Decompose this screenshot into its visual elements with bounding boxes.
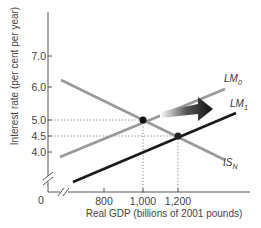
y-tick-6: 6.0 [31,81,46,93]
is-label: ISN [223,157,238,170]
x-axis-label: Real GDP (billions of 2001 pounds) [86,208,243,219]
equilibrium-point-new [175,133,182,140]
guide-lines [48,120,178,192]
shift-arrow-icon [160,97,213,121]
y-tick-4-5: 4.5 [31,130,46,142]
x-tick-800: 800 [95,195,113,207]
y-axis-label: Interest rate (per cent per year) [9,7,20,145]
equilibrium-point-initial [140,117,147,124]
x-tick-1000: 1,000 [130,195,156,207]
lm0-label: LM0 [224,73,242,86]
x-tick-1200: 1,200 [165,195,191,207]
islm-chart: 7.0 6.0 5.0 4.5 4.0 Interest rate (per c… [0,0,261,228]
lm1-curve [73,113,236,182]
y-tick-4: 4.0 [31,146,46,158]
y-axis [43,12,53,192]
x-tick-origin: 0 [38,194,44,206]
y-tick-7: 7.0 [31,50,46,62]
lm1-label: LM1 [230,98,248,111]
y-tick-5: 5.0 [31,114,46,126]
